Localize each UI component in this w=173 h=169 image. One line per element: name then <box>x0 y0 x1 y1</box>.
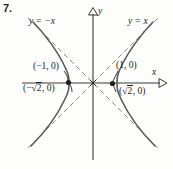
focus-right-label: (√2, 0) <box>119 87 145 97</box>
leader-focus-right <box>113 85 116 92</box>
focus-left-suffix: , 0) <box>42 83 55 93</box>
asymptote-negative-label: y = −x <box>29 17 55 27</box>
focus-left-label: (−√2, 0) <box>23 84 55 94</box>
x-axis-arrowhead-icon <box>159 79 167 88</box>
focus-left-prefix: (− <box>23 83 32 93</box>
focus-right-suffix: , 0) <box>133 86 146 96</box>
problem-number: 7. <box>3 3 12 14</box>
y-axis-arrowhead-icon <box>89 8 98 16</box>
vertex-left-label: (−1, 0) <box>33 62 59 72</box>
x-axis-label: x <box>152 68 156 78</box>
hyperbola-right-branch <box>117 22 155 146</box>
leader-focus-left <box>70 85 72 92</box>
vertex-right-label: (1, 0) <box>116 61 137 71</box>
y-axis-label: y <box>98 7 102 17</box>
vertex-right-dot <box>110 81 115 86</box>
asymptote-positive-label: y = x <box>128 17 148 27</box>
hyperbola-figure: 7. y = −x y = x y x (−1, 0) (1, 0) (−√2,… <box>0 0 173 169</box>
sqrt-symbol-icon: √2 <box>122 87 132 97</box>
vertex-left-dot <box>66 80 71 85</box>
sqrt-symbol-icon: √2 <box>32 84 42 94</box>
